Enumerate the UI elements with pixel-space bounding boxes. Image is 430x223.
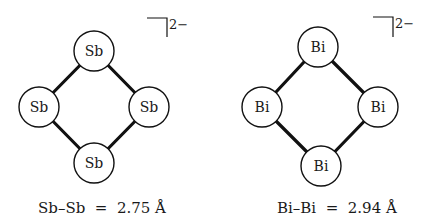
atom-label: Sb xyxy=(85,43,104,59)
atom-label: Bi xyxy=(255,99,270,115)
bi-bond-length-caption: Bi–Bi = 2.94 Å xyxy=(277,199,397,217)
atom-label: Bi xyxy=(311,39,326,55)
atom-label: Sb xyxy=(30,99,49,115)
atom-label: Bi xyxy=(371,99,386,115)
atom-label: Sb xyxy=(140,99,159,115)
bracket xyxy=(373,17,393,37)
sb-bond-length-caption: Sb–Sb = 2.75 Å xyxy=(38,199,166,217)
bi4-charge-bracket: 2− xyxy=(373,16,414,37)
atom-label: Bi xyxy=(314,158,329,174)
charge-label: 2− xyxy=(169,17,188,32)
charge-label: 2− xyxy=(395,16,414,31)
diagram-canvas: Sb Sb Sb Sb 2− Bi Bi Bi Bi 2− xyxy=(0,0,430,223)
sb4-charge-bracket: 2− xyxy=(147,17,188,37)
bracket xyxy=(147,18,167,37)
atom-label: Sb xyxy=(85,155,104,171)
